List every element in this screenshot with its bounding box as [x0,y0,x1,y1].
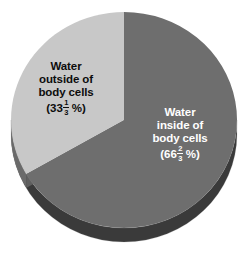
pie-chart-graphic [0,0,249,257]
pie-chart-figure: Water outside of body cells (33 1 3 %) W… [0,0,249,257]
